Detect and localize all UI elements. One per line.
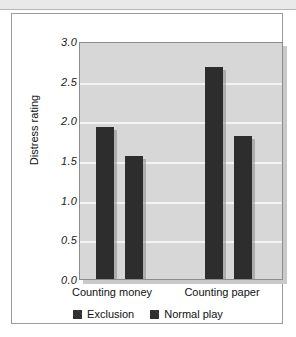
- legend-swatch-icon: [150, 310, 159, 319]
- y-tick-label: 1.0: [45, 195, 77, 207]
- chart-legend: Exclusion Normal play: [12, 308, 284, 320]
- gridline: [80, 122, 282, 124]
- y-tick-label: 2.5: [45, 76, 77, 88]
- bar-normalplay-counting-money: [125, 156, 143, 279]
- bar-normalplay-counting-paper: [234, 136, 252, 279]
- figure-frame: 3.0 2.5 2.0 1.5 1.0 0.5 0.0 Distress rat…: [11, 13, 283, 324]
- y-axis-ticks: 3.0 2.5 2.0 1.5 1.0 0.5 0.0: [39, 42, 77, 280]
- gridline: [80, 83, 282, 85]
- figure-container: 3.0 2.5 2.0 1.5 1.0 0.5 0.0 Distress rat…: [0, 0, 296, 337]
- y-axis-title: Distress rating: [28, 80, 40, 180]
- legend-label: Exclusion: [87, 308, 134, 320]
- y-tick-label: 1.5: [45, 155, 77, 167]
- legend-swatch-icon: [73, 310, 82, 319]
- legend-item-exclusion: Exclusion: [73, 308, 134, 320]
- bar-exclusion-counting-money: [96, 127, 114, 279]
- plot-area: [79, 42, 283, 280]
- y-tick-label: 2.0: [45, 115, 77, 127]
- x-tick-label-counting-money: Counting money: [52, 286, 172, 298]
- y-tick-label: 0.5: [45, 234, 77, 246]
- y-tick-label: 3.0: [45, 36, 77, 48]
- y-tick-label: 0.0: [45, 274, 77, 286]
- x-tick-label-counting-paper: Counting paper: [162, 286, 282, 298]
- page-top-strip: [0, 0, 296, 10]
- legend-item-normal-play: Normal play: [150, 308, 223, 320]
- legend-label: Normal play: [164, 308, 223, 320]
- bar-exclusion-counting-paper: [205, 67, 223, 279]
